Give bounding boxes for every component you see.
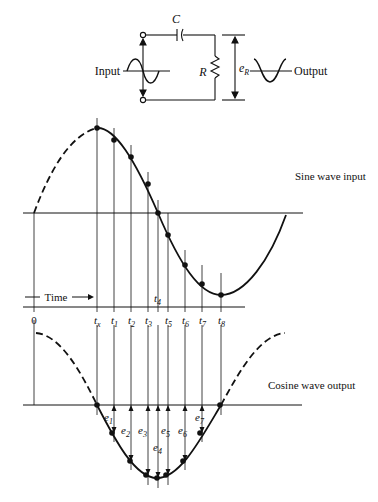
svg-text:t5: t5 <box>165 314 172 329</box>
sine-title: Sine wave input <box>295 170 366 182</box>
sine-curve <box>97 128 286 295</box>
resistor-icon <box>211 56 219 78</box>
svg-text:t3: t3 <box>145 314 152 329</box>
output-label: Output <box>294 64 328 78</box>
svg-text:e6: e6 <box>178 424 187 439</box>
svg-text:t7: t7 <box>199 314 207 329</box>
svg-text:t2: t2 <box>128 314 135 329</box>
cosine-title: Cosine wave output <box>268 379 355 391</box>
svg-text:e3: e3 <box>138 424 147 439</box>
e-labels: e1 e2 e3 e4 e5 e6 e7 <box>104 411 205 456</box>
capacitor-label: C <box>172 12 181 26</box>
svg-text:t6: t6 <box>182 314 189 329</box>
time-arrow-icon <box>88 294 94 300</box>
svg-text:t8: t8 <box>218 314 225 329</box>
rc-differentiator-diagram: C R eR Input Output <box>0 0 378 502</box>
cosine-sample-dots <box>94 402 223 481</box>
resistor-label: R <box>198 65 207 79</box>
cosine-panel <box>23 320 302 488</box>
input-label: Input <box>95 64 121 78</box>
svg-text:e4: e4 <box>153 441 162 456</box>
sine-panel <box>23 118 303 312</box>
svg-text:e2: e2 <box>121 424 130 439</box>
time-label: Time <box>45 291 68 303</box>
svg-text:tx: tx <box>94 314 101 329</box>
svg-text:t1: t1 <box>111 314 118 329</box>
t4-label: t4 <box>154 292 161 307</box>
voltage-label: eR <box>239 61 249 77</box>
svg-text:e5: e5 <box>161 424 170 439</box>
svg-text:e1: e1 <box>104 411 113 426</box>
svg-text:e7: e7 <box>195 411 205 426</box>
circuit <box>123 29 292 103</box>
